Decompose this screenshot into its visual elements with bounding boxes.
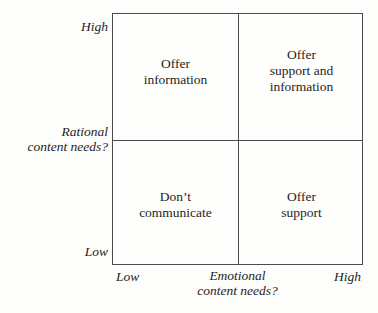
- y-axis-title: Rational content needs?: [27, 124, 108, 154]
- quadrant-matrix-figure: High Rational content needs? Low Offer i…: [0, 0, 378, 313]
- y-axis-high-label: High: [81, 19, 108, 34]
- quadrant-top-right: Offer support and information: [239, 14, 364, 140]
- quadrant-bottom-left: Don’t communicate: [113, 141, 238, 266]
- matrix-box: Offer information Offer support and info…: [112, 13, 363, 265]
- quadrant-bottom-right: Offer support: [239, 141, 364, 266]
- y-axis-low-label: Low: [85, 244, 108, 259]
- x-axis-high-label: High: [112, 269, 361, 284]
- quadrant-top-left: Offer information: [113, 14, 238, 140]
